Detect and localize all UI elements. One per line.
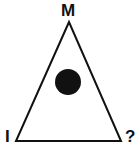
label-top: M	[61, 2, 75, 19]
center-dot	[55, 69, 81, 95]
label-bottom-right: ?	[125, 128, 135, 145]
label-bottom-left: I	[5, 128, 10, 145]
triangle-diagram	[0, 0, 139, 147]
